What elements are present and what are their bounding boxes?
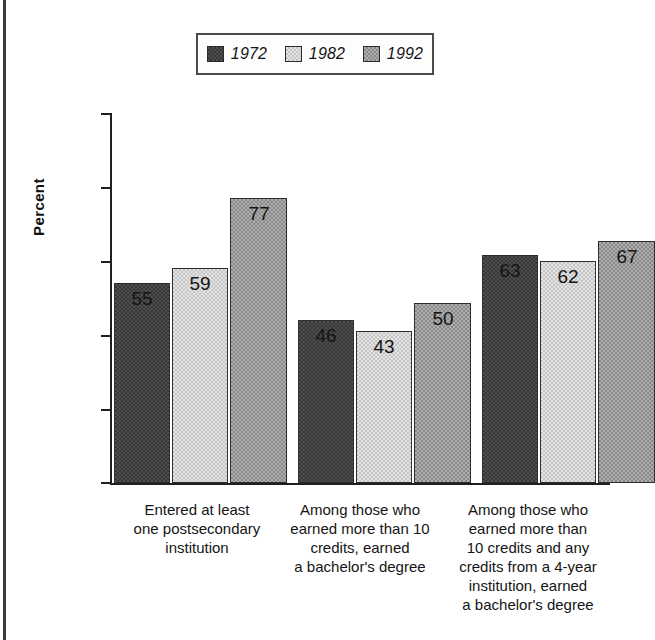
- category-0-line-1: one postsecondary: [108, 519, 286, 538]
- plot-area: 100 80 60 40 20 0 55 59 77 46 43 50 63 6…: [110, 113, 610, 483]
- bar-1992-group-0[interactable]: [230, 198, 287, 483]
- x-axis-line: [110, 483, 610, 485]
- bar-value-1972-group-2: 63: [482, 260, 538, 282]
- legend-item-1972[interactable]: 1972: [207, 45, 267, 63]
- bar-value-1982-group-2: 62: [540, 266, 596, 288]
- light-hatch-swatch-icon: [285, 46, 302, 62]
- category-1-line-2: credits, earned: [277, 538, 443, 557]
- category-1-line-3: a bachelor's degree: [277, 557, 443, 576]
- legend-label-1982: 1982: [309, 45, 345, 63]
- bar-value-1982-group-1: 43: [356, 336, 412, 358]
- y-tick-60: [101, 261, 110, 263]
- category-2-line-0: Among those who: [438, 500, 618, 519]
- bar-1992-group-2[interactable]: [598, 241, 655, 483]
- x-category-label-0: Entered at least one postsecondary insti…: [108, 500, 286, 557]
- category-2-line-1: earned more than: [438, 519, 618, 538]
- y-tick-20: [101, 409, 110, 411]
- x-category-label-2: Among those who earned more than 10 cred…: [438, 500, 618, 614]
- legend-item-1992[interactable]: 1992: [363, 45, 423, 63]
- y-tick-40: [101, 335, 110, 337]
- bar-value-1992-group-2: 67: [599, 246, 655, 268]
- bar-1972-group-0[interactable]: [114, 283, 170, 483]
- category-2-line-2: 10 credits and any: [438, 538, 618, 557]
- bar-1972-group-2[interactable]: [482, 255, 538, 483]
- scan-edge-artifact: [3, 0, 6, 640]
- y-tick-80: [101, 187, 110, 189]
- bar-1992-group-1[interactable]: [414, 303, 471, 483]
- y-tick-100: [101, 113, 110, 115]
- category-1-line-0: Among those who: [277, 500, 443, 519]
- y-tick-0: [101, 482, 110, 484]
- chart-legend: 1972 1982 1992: [196, 33, 434, 75]
- bar-value-1982-group-0: 59: [172, 273, 228, 295]
- legend-item-1982[interactable]: 1982: [285, 45, 345, 63]
- y-axis-line: [110, 113, 112, 483]
- category-2-line-5: a bachelor's degree: [438, 595, 618, 614]
- category-1-line-1: earned more than 10: [277, 519, 443, 538]
- legend-label-1972: 1972: [231, 45, 267, 63]
- category-0-line-2: institution: [108, 538, 286, 557]
- bar-1982-group-2[interactable]: [540, 261, 596, 483]
- bar-1982-group-0[interactable]: [172, 268, 228, 483]
- dark-hatch-swatch-icon: [207, 46, 224, 62]
- category-2-line-3: credits from a 4-year: [438, 557, 618, 576]
- bar-value-1972-group-1: 46: [298, 325, 354, 347]
- x-category-label-1: Among those who earned more than 10 cred…: [277, 500, 443, 576]
- bar-value-1992-group-1: 50: [415, 308, 471, 330]
- bar-value-1972-group-0: 55: [114, 288, 170, 310]
- medium-hatch-swatch-icon: [363, 46, 380, 62]
- category-0-line-0: Entered at least: [108, 500, 286, 519]
- category-2-line-4: institution, earned: [438, 576, 618, 595]
- y-axis-title: Percent: [30, 178, 47, 236]
- bar-value-1992-group-0: 77: [231, 203, 287, 225]
- legend-label-1992: 1992: [387, 45, 423, 63]
